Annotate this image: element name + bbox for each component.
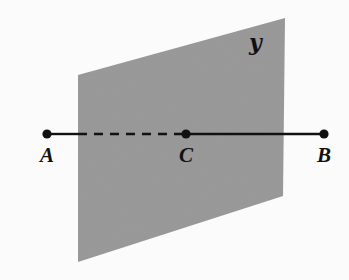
point-dot-a — [42, 129, 51, 138]
point-label-c: C — [171, 145, 201, 166]
point-dot-b — [319, 129, 328, 138]
point-label-b: B — [309, 145, 339, 166]
geometry-figure-canvas: 𝒚 A C B — [0, 0, 349, 280]
point-dot-c — [181, 129, 190, 138]
geometry-figure-svg — [0, 0, 349, 280]
point-label-a: A — [32, 145, 62, 166]
plane-label-script-k: 𝒚 — [249, 31, 262, 53]
